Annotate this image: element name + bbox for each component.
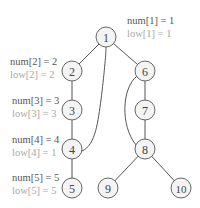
low-label-5: low[5] = 5 <box>12 185 56 197</box>
node-label-1: 1 <box>103 31 109 45</box>
low-label-3: low[3] = 3 <box>12 108 56 120</box>
low-label-1: low[1] = 1 <box>127 28 171 40</box>
back-edge-4-1 <box>82 47 106 151</box>
low-label-4: low[4] = 1 <box>12 147 56 159</box>
num-label-1: num[1] = 1 <box>127 15 174 27</box>
node-label-7: 7 <box>142 104 148 118</box>
node-label-5: 5 <box>69 182 75 196</box>
node-label-4: 4 <box>69 143 75 157</box>
num-label-4: num[4] = 4 <box>12 134 59 146</box>
num-label-2: num[2] = 2 <box>10 56 57 68</box>
node-label-6: 6 <box>142 65 148 79</box>
node-label-2: 2 <box>69 65 75 79</box>
node-label-9: 9 <box>105 182 111 196</box>
num-label-5: num[5] = 5 <box>12 172 59 184</box>
num-label-3: num[3] = 3 <box>12 95 59 107</box>
node-label-10: 10 <box>176 183 188 195</box>
node-label-3: 3 <box>69 104 75 118</box>
node-label-8: 8 <box>142 143 148 157</box>
low-label-2: low[2] = 2 <box>10 69 54 81</box>
